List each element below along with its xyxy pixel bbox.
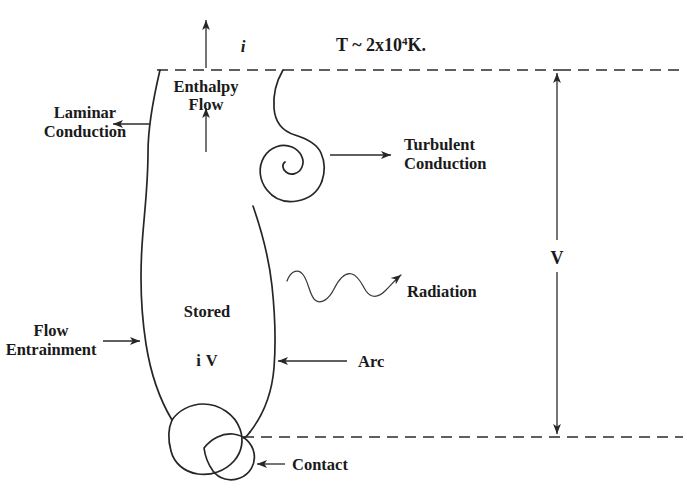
enthalpy-flow-label-line1: Enthalpy [173,77,239,96]
radiation-label: Radiation [407,282,477,301]
temperature-prefix: T ~ 2x10 [336,35,402,55]
laminar-conduction-label-line2: Conduction [44,122,127,141]
temperature-label: T ~ 2x104K. [336,35,426,55]
arc-plasma-column [141,70,275,432]
enthalpy-flow-label-line2: Flow [189,95,224,114]
stored-value-italic: i [196,351,201,370]
turbulence-vortex-spiral [260,70,324,202]
diagram-canvas: i T ~ 2x104K. Enthalpy Flow Laminar Cond… [0,0,687,503]
laminar-conduction-label-line1: Laminar [54,103,116,122]
temperature-suffix: K. [408,35,427,55]
stored-value-upright: V [206,351,218,370]
turbulent-conduction-label-line1: Turbulent [404,135,475,154]
turbulent-conduction-label-line2: Conduction [404,154,487,173]
contact-label: Contact [292,455,348,474]
stored-value-label: iV [196,351,218,370]
stored-label: Stored [184,302,230,321]
flow-entrainment-label-line2: Entrainment [6,340,97,359]
current-label-top: i [241,37,246,56]
radiation-wave-arrow [287,271,401,302]
arc-label: Arc [358,352,384,371]
arc-energy-balance-diagram: i T ~ 2x104K. Enthalpy Flow Laminar Cond… [0,0,687,503]
flow-entrainment-label-line1: Flow [34,321,69,340]
contact-blob [169,404,255,480]
voltage-label: V [551,248,564,268]
